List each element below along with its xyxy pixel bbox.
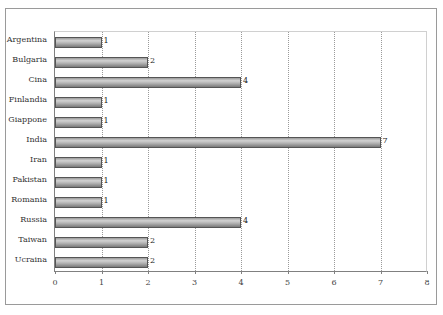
bar-row: Cina4	[55, 72, 426, 92]
data-label: 1	[104, 196, 109, 205]
data-label: 1	[104, 176, 109, 185]
category-label: India	[26, 135, 47, 144]
bar-row: Bulgaria2	[55, 52, 426, 72]
category-label: Taiwan	[18, 235, 47, 244]
x-tick-label: 4	[238, 278, 243, 287]
bar	[55, 177, 102, 188]
category-label: Pakistan	[13, 175, 47, 184]
bar-row: India7	[55, 132, 426, 152]
data-label: 4	[243, 216, 248, 225]
data-label: 2	[150, 256, 155, 265]
data-label: 2	[150, 56, 155, 65]
bar	[55, 57, 148, 68]
bar	[55, 97, 102, 108]
data-label: 1	[104, 96, 109, 105]
category-label: Iran	[30, 155, 47, 164]
bar	[55, 37, 102, 48]
bar-row: Russia4	[55, 212, 426, 232]
bar-row: Finlandia1	[55, 92, 426, 112]
bar-row: Romania1	[55, 192, 426, 212]
bar-row: Iran1	[55, 152, 426, 172]
category-label: Cina	[28, 75, 47, 84]
bar-row: Argentina1	[55, 32, 426, 52]
category-label: Bulgaria	[12, 55, 47, 64]
bar	[55, 257, 148, 268]
bar-row: Giappone1	[55, 112, 426, 132]
category-label: Ucraina	[15, 255, 47, 264]
bar-row: Pakistan1	[55, 172, 426, 192]
x-tick-label: 1	[99, 278, 104, 287]
bar	[55, 217, 241, 228]
bar	[55, 197, 102, 208]
data-label: 7	[383, 136, 388, 145]
category-label: Argentina	[7, 35, 47, 44]
bar	[55, 137, 381, 148]
bar	[55, 237, 148, 248]
category-label: Romania	[11, 195, 47, 204]
data-label: 4	[243, 76, 248, 85]
x-tick-label: 5	[285, 278, 290, 287]
data-label: 1	[104, 116, 109, 125]
bar-row: Ucraina2	[55, 252, 426, 272]
category-label: Giappone	[8, 115, 47, 124]
bar	[55, 157, 102, 168]
x-tick-label: 7	[378, 278, 383, 287]
data-label: 2	[150, 236, 155, 245]
data-label: 1	[104, 156, 109, 165]
x-tick-label: 6	[331, 278, 336, 287]
x-tick-label: 2	[145, 278, 150, 287]
bar	[55, 77, 241, 88]
data-label: 1	[104, 36, 109, 45]
x-tick-mark	[427, 271, 428, 274]
category-label: Finlandia	[9, 95, 47, 104]
x-tick-label: 3	[192, 278, 197, 287]
plot-area: 012345678Argentina1Bulgaria2Cina4Finland…	[54, 31, 427, 272]
x-tick-label: 0	[52, 278, 57, 287]
x-tick-label: 8	[424, 278, 429, 287]
bar	[55, 117, 102, 128]
category-label: Russia	[20, 215, 47, 224]
bar-row: Taiwan2	[55, 232, 426, 252]
